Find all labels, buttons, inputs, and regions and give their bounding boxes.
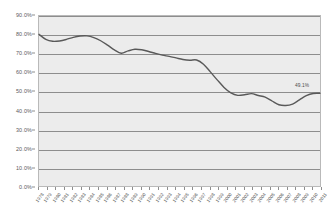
y-tick-label: 50.0% — [16, 88, 32, 94]
y-tick-label: 20.0% — [16, 146, 32, 152]
x-tick-mark — [304, 187, 305, 190]
x-tick-mark — [149, 187, 150, 190]
x-tick-mark — [98, 187, 99, 190]
y-tick-label: 10.0% — [16, 165, 32, 171]
x-tick-label: 2011 — [317, 192, 327, 203]
x-tick-mark — [192, 187, 193, 190]
x-tick-mark — [227, 187, 228, 190]
x-tick-label: 1984 — [86, 192, 96, 203]
x-tick-mark — [158, 187, 159, 190]
y-tick-mark — [32, 53, 35, 54]
x-tick-mark — [261, 187, 262, 190]
y-tick-mark — [32, 187, 35, 188]
x-tick-mark — [141, 187, 142, 190]
y-tick-mark — [32, 72, 35, 73]
y-tick-label: 70.0% — [16, 50, 32, 56]
x-tick-mark — [175, 187, 176, 190]
y-tick-mark — [32, 129, 35, 130]
y-tick-label: 60.0% — [16, 69, 32, 75]
x-tick-mark — [47, 187, 48, 190]
x-tick-mark — [287, 187, 288, 190]
x-tick-mark — [107, 187, 108, 190]
y-tick-mark — [32, 110, 35, 111]
y-tick-mark — [32, 91, 35, 92]
x-axis: 1978197919801981198219831984198519861987… — [38, 187, 321, 220]
y-tick-label: 30.0% — [16, 127, 32, 133]
x-tick-mark — [132, 187, 133, 190]
y-tick-mark — [32, 34, 35, 35]
x-tick-mark — [55, 187, 56, 190]
y-tick-label: 40.0% — [16, 108, 32, 114]
x-tick-mark — [201, 187, 202, 190]
x-tick-mark — [72, 187, 73, 190]
x-tick-mark — [81, 187, 82, 190]
x-tick-mark — [115, 187, 116, 190]
x-tick-mark — [89, 187, 90, 190]
x-tick-mark — [321, 187, 322, 190]
plot-area — [38, 15, 321, 187]
x-tick-label: 2010 — [309, 192, 319, 203]
y-tick-mark — [32, 167, 35, 168]
x-tick-label: 1990 — [137, 192, 147, 203]
x-tick-mark — [312, 187, 313, 190]
x-tick-label: 1991 — [146, 192, 156, 203]
y-tick-mark — [32, 148, 35, 149]
x-tick-mark — [278, 187, 279, 190]
x-tick-mark — [167, 187, 168, 190]
x-tick-mark — [210, 187, 211, 190]
y-tick-label: 0.0% — [19, 184, 32, 190]
x-tick-label: 1998 — [206, 192, 216, 203]
x-tick-label: 2005 — [266, 192, 276, 203]
x-tick-mark — [252, 187, 253, 190]
x-tick-mark — [244, 187, 245, 190]
y-tick-label: 80.0% — [16, 31, 32, 37]
x-tick-mark — [235, 187, 236, 190]
x-tick-mark — [295, 187, 296, 190]
line-series-path — [39, 34, 320, 105]
x-tick-mark — [184, 187, 185, 190]
x-tick-label: 1983 — [77, 192, 87, 203]
y-axis: 90.0%80.0%70.0%60.0%50.0%40.0%30.0%20.0%… — [0, 15, 35, 187]
end-value-label: 49.1% — [295, 83, 309, 88]
y-tick-label: 90.0% — [16, 12, 32, 18]
x-tick-mark — [270, 187, 271, 190]
x-tick-mark — [218, 187, 219, 190]
y-tick-mark — [32, 15, 35, 16]
x-tick-mark — [124, 187, 125, 190]
x-tick-mark — [38, 187, 39, 190]
x-tick-mark — [64, 187, 65, 190]
x-tick-label: 2009 — [300, 192, 310, 203]
line-series-svg — [39, 16, 320, 186]
